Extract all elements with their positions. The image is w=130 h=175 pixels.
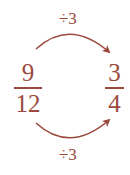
result-fraction: 3 4 <box>105 60 124 116</box>
bottom-arc-arrow-icon <box>36 120 109 138</box>
result-denominator: 4 <box>108 89 121 116</box>
bottom-operation-label: ÷3 <box>59 146 77 163</box>
source-numerator: 9 <box>22 60 35 87</box>
top-operation-label: ÷3 <box>59 10 77 27</box>
source-fraction: 9 12 <box>14 60 42 116</box>
top-arc-arrow-icon <box>36 34 109 52</box>
result-numerator: 3 <box>108 60 121 87</box>
source-denominator: 12 <box>16 89 41 116</box>
